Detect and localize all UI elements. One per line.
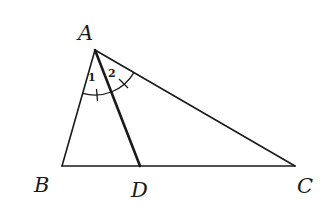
angle-1-label: 1 <box>88 71 96 84</box>
triangle-diagram: 1 2 A B D C <box>0 0 326 213</box>
segment-AD <box>95 50 140 166</box>
angle-1-tick <box>97 89 98 101</box>
vertex-label-C: C <box>297 174 313 198</box>
vertex-label-D: D <box>130 178 148 202</box>
segment-AB <box>62 50 95 166</box>
vertex-label-A: A <box>76 21 93 45</box>
segment-AC <box>95 50 295 166</box>
angle-2-label: 2 <box>108 67 116 80</box>
vertex-label-B: B <box>33 173 49 197</box>
